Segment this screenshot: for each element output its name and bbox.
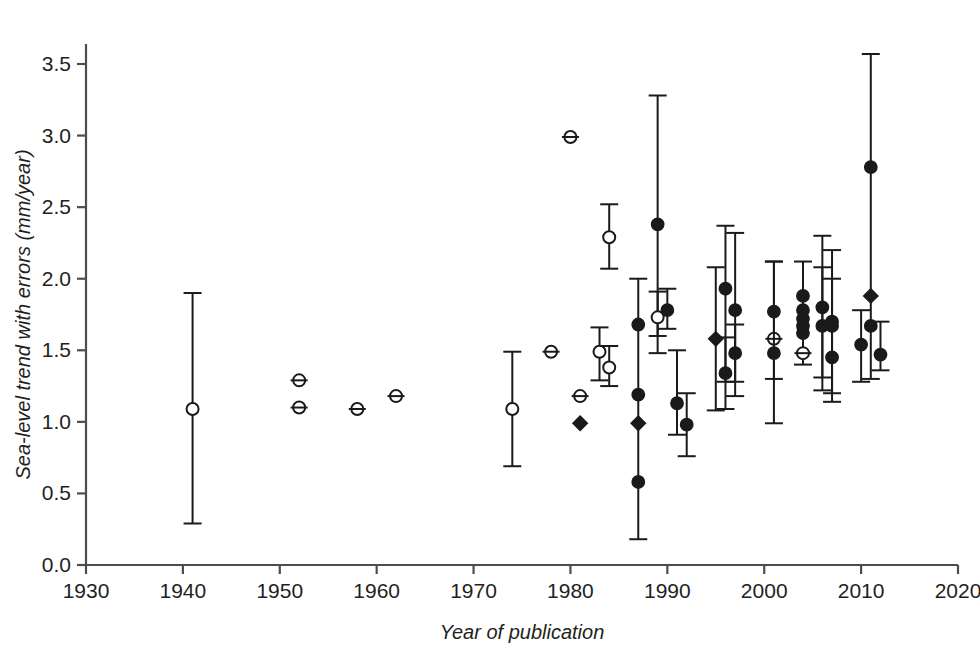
marker-filled-circle <box>681 419 693 431</box>
data-point <box>573 416 587 430</box>
x-tick-label: 1960 <box>353 579 400 602</box>
x-tick-label: 1980 <box>547 579 594 602</box>
marker-open-circle <box>594 346 606 358</box>
data-point <box>291 402 308 414</box>
y-tick-label: 0.0 <box>42 553 71 576</box>
marker-open-circle <box>603 361 615 373</box>
marker-filled-circle <box>865 161 877 173</box>
y-tick-label: 2.5 <box>42 195 71 218</box>
data-point <box>864 289 878 303</box>
data-point <box>794 347 811 359</box>
data-point <box>184 293 202 523</box>
data-point <box>572 390 589 402</box>
sea-level-trend-chart: 0.00.51.01.52.02.53.03.51930194019501960… <box>0 0 980 661</box>
y-axis-title: Sea-level trend with errors (mm/year) <box>12 149 34 479</box>
marker-filled-circle <box>855 338 867 350</box>
marker-filled-circle <box>797 290 809 302</box>
data-point <box>543 346 560 358</box>
marker-filled-circle <box>826 351 838 363</box>
data-point <box>349 403 366 415</box>
marker-filled-circle <box>729 347 741 359</box>
x-axis-title: Year of publication <box>440 621 605 643</box>
marker-diamond <box>709 332 723 346</box>
data-point <box>291 374 308 386</box>
x-tick-label: 1930 <box>63 579 110 602</box>
x-tick-label: 2000 <box>741 579 788 602</box>
marker-filled-circle <box>719 367 731 379</box>
data-point <box>765 262 783 424</box>
marker-diamond <box>864 289 878 303</box>
axis-labels-layer: 0.00.51.01.52.02.53.03.51930194019501960… <box>12 52 980 643</box>
marker-filled-circle <box>632 388 644 400</box>
marker-filled-circle <box>632 318 644 330</box>
data-point <box>797 327 809 339</box>
marker-filled-circle <box>768 347 780 359</box>
y-tick-label: 2.0 <box>42 267 71 290</box>
marker-filled-circle <box>719 283 731 295</box>
data-point <box>632 388 644 400</box>
x-tick-label: 2010 <box>838 579 885 602</box>
marker-filled-circle <box>632 476 644 488</box>
marker-filled-circle <box>651 218 663 230</box>
data-point <box>562 131 579 143</box>
y-tick-label: 3.5 <box>42 52 71 75</box>
chart-canvas: 0.00.51.01.52.02.53.03.51930194019501960… <box>0 0 980 661</box>
data-point <box>629 279 647 540</box>
y-tick-label: 1.0 <box>42 410 71 433</box>
marker-filled-circle <box>874 348 886 360</box>
x-tick-label: 1950 <box>256 579 303 602</box>
x-tick-label: 1940 <box>160 579 207 602</box>
marker-open-circle <box>506 403 518 415</box>
marker-diamond <box>573 416 587 430</box>
marker-filled-circle <box>729 304 741 316</box>
marker-open-circle <box>187 403 199 415</box>
data-point <box>388 390 405 402</box>
data-point <box>632 476 644 488</box>
x-tick-label: 1970 <box>450 579 497 602</box>
y-tick-label: 3.0 <box>42 124 71 147</box>
marker-filled-circle <box>661 304 673 316</box>
data-point <box>503 352 521 467</box>
y-tick-label: 0.5 <box>42 481 71 504</box>
marker-diamond <box>631 416 645 430</box>
marker-open-circle <box>603 231 615 243</box>
marker-filled-circle <box>671 397 683 409</box>
x-tick-label: 2020 <box>935 579 980 602</box>
data-point <box>600 204 618 268</box>
y-tick-label: 1.5 <box>42 338 71 361</box>
x-tick-label: 1990 <box>644 579 691 602</box>
marker-filled-circle <box>797 327 809 339</box>
data-point <box>823 279 841 402</box>
data-point <box>631 416 645 430</box>
data-points-layer <box>184 54 890 539</box>
